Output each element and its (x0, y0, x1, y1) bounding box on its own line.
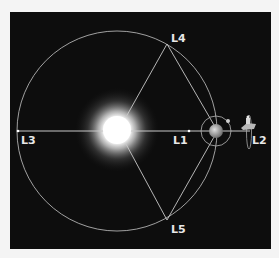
label-l4: L4 (171, 32, 186, 45)
line-l4-earth (167, 44, 214, 125)
label-l2: L2 (252, 134, 267, 147)
label-l5: L5 (171, 223, 186, 236)
label-l3: L3 (21, 134, 36, 147)
line-l5-earth (167, 137, 214, 220)
l3-point (17, 130, 20, 133)
earth-icon (209, 124, 223, 138)
moon-icon (226, 119, 230, 123)
label-l1: L1 (173, 134, 188, 147)
satellite-icon (241, 116, 256, 131)
l1-point (188, 130, 191, 133)
lagrange-diagram: L4 L5 L3 L1 L2 (0, 0, 279, 258)
sun-core (103, 116, 131, 144)
